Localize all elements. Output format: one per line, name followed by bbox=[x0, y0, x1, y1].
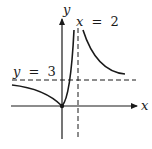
horizontal-asymptote-value: 3 bbox=[48, 64, 56, 79]
function-graph: y x x = 2 y = 3 bbox=[0, 0, 152, 149]
vertical-asymptote-value: 2 bbox=[111, 14, 119, 29]
curve-left-branch bbox=[12, 85, 62, 106]
horizontal-asymptote-var: y bbox=[12, 64, 21, 79]
y-axis-label: y bbox=[62, 2, 71, 17]
horizontal-asymptote-label: y = 3 bbox=[12, 64, 56, 79]
vertical-asymptote-var: x bbox=[76, 14, 84, 29]
curve-right-branch bbox=[83, 30, 125, 74]
origin-point bbox=[60, 104, 64, 108]
vertical-asymptote-eq: = bbox=[91, 14, 102, 29]
x-axis-label: x bbox=[141, 98, 149, 113]
vertical-asymptote-label: x = 2 bbox=[76, 14, 119, 29]
horizontal-asymptote-eq: = bbox=[29, 64, 40, 79]
curve-middle-branch bbox=[62, 30, 74, 106]
